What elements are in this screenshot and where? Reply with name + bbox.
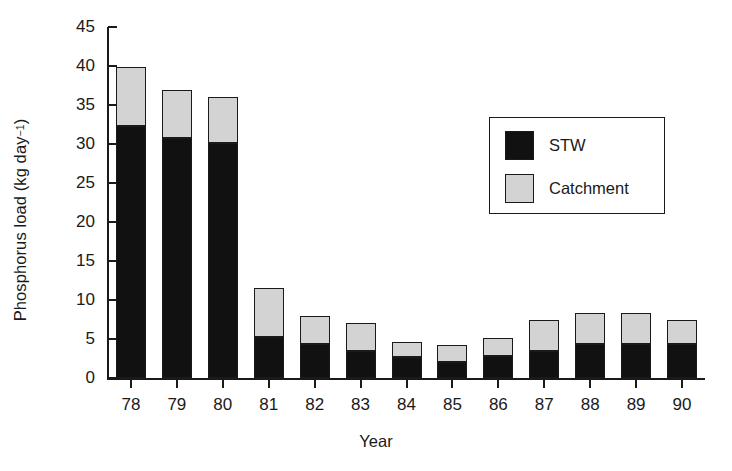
x-tick-label: 86 [473,395,523,415]
bar-segment-stw-78 [116,126,146,378]
bar-segment-stw-90 [667,344,697,378]
chart-legend: STW Catchment [489,117,665,214]
phosphorus-load-bar-chart: Phosphorus load (kg day−1) Year 05101520… [0,0,732,471]
x-tick-mark [130,379,132,388]
x-tick-label: 88 [565,395,615,415]
bar-segment-catchment-84 [392,342,422,357]
bar-segment-catchment-87 [529,320,559,351]
x-tick-mark [268,379,270,388]
bar-segment-stw-83 [346,351,376,378]
x-tick-label: 80 [198,395,248,415]
bar-82 [300,316,330,378]
y-axis-title-text: Phosphorus load (kg day [11,136,30,321]
x-tick-label: 84 [382,395,432,415]
x-axis-title-text: Year [359,432,392,450]
x-tick-mark [589,379,591,388]
x-tick-mark [360,379,362,388]
y-tick-label: 45 [55,15,95,39]
y-tick-label: 25 [55,171,95,195]
bar-segment-catchment-86 [483,338,513,356]
y-tick-label: 0 [55,366,95,390]
bar-segment-stw-79 [162,138,192,378]
bar-segment-stw-88 [575,344,605,378]
bar-segment-catchment-90 [667,320,697,345]
x-tick-label: 83 [336,395,386,415]
x-tick-mark [681,379,683,388]
bar-segment-catchment-79 [162,90,192,138]
bar-segment-stw-81 [254,337,284,378]
legend-label-stw: STW [549,136,586,155]
x-axis-title: Year [0,432,732,451]
y-axis-title: Phosphorus load (kg day−1) [3,25,37,415]
x-tick-label: 78 [106,395,156,415]
legend-label-catchment: Catchment [549,179,629,198]
bar-segment-catchment-89 [621,313,651,345]
y-tick-mark [108,26,117,28]
x-tick-mark [176,379,178,388]
y-tick-label: 20 [55,210,95,234]
x-tick-mark [314,379,316,388]
y-tick-label: 30 [55,132,95,156]
bar-79 [162,90,192,378]
x-tick-label: 81 [244,395,294,415]
bar-segment-stw-89 [621,344,651,378]
bar-80 [208,97,238,378]
bar-81 [254,288,284,378]
bar-78 [116,67,146,378]
bar-segment-stw-80 [208,143,238,378]
bar-segment-catchment-78 [116,67,146,126]
bar-87 [529,320,559,379]
bar-segment-catchment-82 [300,316,330,345]
x-tick-mark [543,379,545,388]
bar-segment-stw-84 [392,357,422,378]
bar-segment-stw-87 [529,351,559,378]
x-tick-mark [635,379,637,388]
x-tick-mark [222,379,224,388]
y-axis-line [107,27,109,379]
bar-segment-catchment-81 [254,288,284,338]
bar-segment-catchment-85 [437,345,467,362]
bar-86 [483,338,513,378]
bar-segment-catchment-88 [575,313,605,345]
bar-segment-stw-85 [437,362,467,378]
bar-90 [667,320,697,379]
legend-swatch-catchment [505,174,534,203]
bar-segment-catchment-80 [208,97,238,143]
x-tick-mark [451,379,453,388]
y-tick-label: 35 [55,93,95,117]
bar-88 [575,312,605,378]
x-tick-mark [497,379,499,388]
bar-89 [621,312,651,378]
bar-85 [437,345,467,378]
y-axis-title-suffix: ) [11,119,30,125]
x-tick-label: 90 [657,395,707,415]
y-tick-label: 5 [55,327,95,351]
y-tick-label: 40 [55,54,95,78]
bar-83 [346,323,376,378]
bar-segment-catchment-83 [346,323,376,351]
legend-item-catchment: Catchment [505,173,629,203]
bar-segment-stw-86 [483,356,513,378]
x-tick-mark [406,379,408,388]
x-tick-label: 85 [427,395,477,415]
bar-84 [392,342,422,378]
legend-swatch-stw [505,131,534,160]
legend-item-stw: STW [505,130,586,160]
x-tick-label: 79 [152,395,202,415]
y-tick-label: 10 [55,288,95,312]
x-tick-label: 87 [519,395,569,415]
bar-segment-stw-82 [300,344,330,378]
x-tick-label: 89 [611,395,661,415]
y-tick-label: 15 [55,249,95,273]
x-tick-label: 82 [290,395,340,415]
